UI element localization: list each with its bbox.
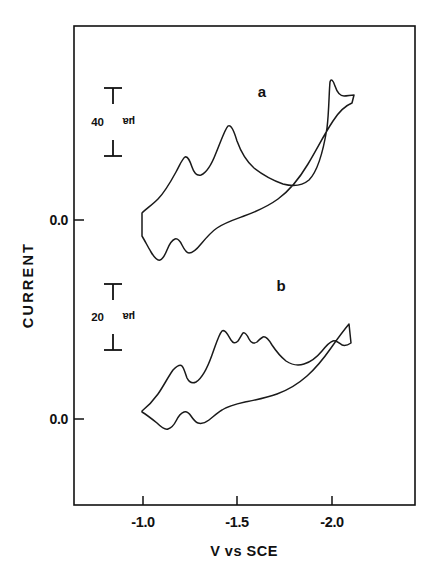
- scale-bar-b: [104, 284, 122, 350]
- scale-bar-a-value: 40: [91, 116, 104, 128]
- scale-bar-a-unit: µa: [122, 116, 135, 128]
- figure-container: -1.0 -1.5 -2.0 V vs SCE CURRENT 0.0 0.0 …: [0, 0, 442, 574]
- plot-frame: [74, 26, 415, 505]
- x-axis-title: V vs SCE: [210, 543, 278, 559]
- y-axis-title: CURRENT: [20, 242, 36, 328]
- y-zero-label-lower: 0.0: [49, 411, 68, 427]
- x-tick-label-2: -1.5: [225, 514, 249, 530]
- y-zero-label-upper: 0.0: [49, 212, 68, 228]
- scale-bar-b-unit: µa: [122, 311, 135, 323]
- curve-label-a: a: [258, 83, 267, 100]
- curve-label-b: b: [276, 277, 285, 294]
- scale-bar-b-value: 20: [91, 311, 104, 323]
- scale-bar-a: [104, 88, 122, 156]
- x-tick-label-1: -1.0: [131, 514, 155, 530]
- voltammogram-curve-a: [142, 80, 354, 260]
- cyclic-voltammogram-chart: -1.0 -1.5 -2.0 V vs SCE CURRENT 0.0 0.0 …: [0, 0, 442, 574]
- voltammogram-curve-b: [142, 324, 351, 429]
- x-tick-label-3: -2.0: [320, 514, 344, 530]
